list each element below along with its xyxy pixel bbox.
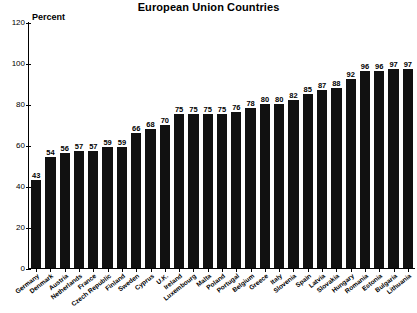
y-axis-tick-label: 120 bbox=[12, 17, 25, 28]
bar-column: 59 bbox=[115, 22, 129, 268]
bar-column: 56 bbox=[58, 22, 72, 268]
bar-value-label: 80 bbox=[261, 95, 269, 104]
bar-column: 70 bbox=[158, 22, 172, 268]
bar-column: 97 bbox=[401, 22, 415, 268]
bar-column: 76 bbox=[229, 22, 243, 268]
y-axis-tick-label: 20 bbox=[16, 222, 25, 233]
bar-chart: European Union Countries Percent 0204060… bbox=[0, 0, 417, 313]
bar: 57 bbox=[74, 151, 84, 268]
bar: 96 bbox=[374, 71, 384, 268]
bar-column: 57 bbox=[86, 22, 100, 268]
bar-value-label: 54 bbox=[46, 148, 54, 157]
bar: 80 bbox=[260, 104, 270, 268]
y-axis-tick-label: 0 bbox=[21, 263, 25, 274]
bar-value-label: 80 bbox=[275, 95, 283, 104]
bar-column: 75 bbox=[215, 22, 229, 268]
y-axis-tick-label: 40 bbox=[16, 181, 25, 192]
bar: 87 bbox=[317, 90, 327, 268]
bar-value-label: 43 bbox=[32, 171, 40, 180]
bar-value-label: 96 bbox=[361, 62, 369, 71]
plot-area: 020406080100120 435456575759596668707575… bbox=[28, 22, 415, 269]
y-axis-tick-label: 100 bbox=[12, 58, 25, 69]
y-axis-tick-mark bbox=[26, 269, 31, 270]
bar-value-label: 75 bbox=[189, 105, 197, 114]
bar: 57 bbox=[88, 151, 98, 268]
bar-column: 96 bbox=[372, 22, 386, 268]
bar-column: 66 bbox=[129, 22, 143, 268]
bar-value-label: 92 bbox=[347, 70, 355, 79]
bar-column: 85 bbox=[301, 22, 315, 268]
bar-column: 96 bbox=[358, 22, 372, 268]
bar: 80 bbox=[274, 104, 284, 268]
y-axis-tick-label: 60 bbox=[16, 140, 25, 151]
bar-column: 54 bbox=[43, 22, 57, 268]
bar-column: 75 bbox=[172, 22, 186, 268]
bar: 75 bbox=[203, 114, 213, 268]
bar: 54 bbox=[45, 157, 55, 268]
bar-value-label: 75 bbox=[218, 105, 226, 114]
bar: 75 bbox=[188, 114, 198, 268]
bar-column: 75 bbox=[186, 22, 200, 268]
bar: 78 bbox=[245, 108, 255, 268]
bar: 75 bbox=[217, 114, 227, 268]
bar: 56 bbox=[60, 153, 70, 268]
bar-column: 68 bbox=[143, 22, 157, 268]
bar-value-label: 75 bbox=[204, 105, 212, 114]
bar-value-label: 70 bbox=[161, 116, 169, 125]
bar: 96 bbox=[360, 71, 370, 268]
bar-value-label: 96 bbox=[375, 62, 383, 71]
bar: 92 bbox=[346, 79, 356, 268]
bar-value-label: 68 bbox=[146, 120, 154, 129]
bar: 82 bbox=[288, 100, 298, 268]
bar-value-label: 57 bbox=[89, 142, 97, 151]
bar-value-label: 66 bbox=[132, 124, 140, 133]
bar-value-label: 59 bbox=[118, 138, 126, 147]
bar: 75 bbox=[174, 114, 184, 268]
bar-value-label: 88 bbox=[332, 79, 340, 88]
bar: 43 bbox=[31, 180, 41, 268]
bar-column: 88 bbox=[329, 22, 343, 268]
bar-value-label: 76 bbox=[232, 103, 240, 112]
bar-column: 87 bbox=[315, 22, 329, 268]
bar-value-label: 57 bbox=[75, 142, 83, 151]
bar: 59 bbox=[117, 147, 127, 268]
bar-value-label: 97 bbox=[404, 60, 412, 69]
bar-value-label: 82 bbox=[289, 91, 297, 100]
bar-value-label: 97 bbox=[389, 60, 397, 69]
bar: 70 bbox=[160, 125, 170, 269]
bar: 88 bbox=[331, 88, 341, 268]
bar-series: 4354565757595966687075757575767880808285… bbox=[29, 22, 415, 268]
bar: 97 bbox=[403, 69, 413, 268]
bar-column: 43 bbox=[29, 22, 43, 268]
bar-column: 80 bbox=[272, 22, 286, 268]
bar-value-label: 85 bbox=[304, 85, 312, 94]
bar: 59 bbox=[102, 147, 112, 268]
bar-column: 80 bbox=[258, 22, 272, 268]
y-axis-tick-label: 80 bbox=[16, 99, 25, 110]
bar: 85 bbox=[303, 94, 313, 268]
bar: 76 bbox=[231, 112, 241, 268]
bar-column: 97 bbox=[386, 22, 400, 268]
bar-value-label: 56 bbox=[61, 144, 69, 153]
bar-column: 75 bbox=[201, 22, 215, 268]
y-axis-label: Percent bbox=[32, 12, 65, 22]
bar-value-label: 87 bbox=[318, 81, 326, 90]
bar: 68 bbox=[145, 129, 155, 268]
bar-value-label: 75 bbox=[175, 105, 183, 114]
bar-column: 92 bbox=[344, 22, 358, 268]
bar-column: 57 bbox=[72, 22, 86, 268]
bar-value-label: 78 bbox=[246, 99, 254, 108]
bar: 66 bbox=[131, 133, 141, 268]
bar: 97 bbox=[388, 69, 398, 268]
bar-value-label: 59 bbox=[103, 138, 111, 147]
x-axis-labels: GermanyDenmarkAustriaNetherlandsFranceCz… bbox=[29, 272, 415, 313]
bar-column: 82 bbox=[286, 22, 300, 268]
bar-column: 59 bbox=[100, 22, 114, 268]
bar-column: 78 bbox=[243, 22, 257, 268]
x-axis-label-column: Lithuania bbox=[401, 272, 415, 313]
